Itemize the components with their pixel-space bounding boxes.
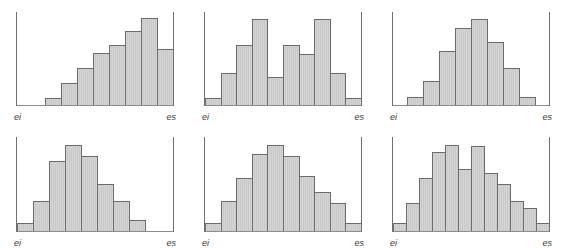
bar-series-2: [205, 12, 361, 105]
axis-label-left: ei: [14, 112, 21, 122]
bar: [61, 83, 78, 105]
axis-line-right-4: [173, 137, 174, 232]
bar: [77, 68, 94, 105]
axis-label-right: es: [166, 238, 176, 248]
bar: [97, 184, 114, 231]
axis-label-left: ei: [202, 112, 209, 122]
bar: [455, 28, 472, 105]
plot-area-1: [16, 12, 174, 106]
bar: [283, 45, 300, 105]
bar: [45, 98, 62, 105]
axis-line-left-4: [16, 137, 17, 232]
axis-line-right-5: [361, 137, 362, 232]
histogram-grid: eieseieseieseieseieseies: [0, 0, 568, 251]
bar: [205, 98, 222, 105]
baseline-4: [16, 231, 174, 232]
histogram-panel-5: eies: [188, 125, 376, 251]
bar: [109, 45, 126, 105]
axis-label-left: ei: [390, 238, 397, 248]
histogram-panel-1: eies: [0, 0, 188, 125]
bar-series-6: [393, 137, 549, 231]
bar: [221, 201, 238, 231]
bar: [439, 51, 456, 105]
bar: [432, 152, 446, 231]
axis-label-right: es: [542, 238, 552, 248]
bar: [33, 201, 50, 231]
bar: [252, 19, 269, 105]
bar: [157, 49, 174, 105]
bar: [330, 203, 347, 231]
bar: [423, 81, 440, 105]
bar: [497, 184, 511, 231]
plot-area-2: [204, 12, 362, 106]
bar: [113, 201, 130, 231]
bar: [252, 154, 269, 231]
bar: [471, 146, 485, 231]
bar: [299, 54, 316, 105]
bar: [299, 176, 316, 231]
bar: [510, 201, 524, 231]
bar: [205, 223, 222, 231]
bar: [314, 192, 331, 231]
bar: [523, 208, 537, 231]
axis-line-left-5: [204, 137, 205, 232]
baseline-3: [392, 105, 550, 106]
plot-area-5: [204, 137, 362, 232]
bar-series-1: [17, 12, 173, 105]
axis-label-right: es: [542, 112, 552, 122]
bar: [314, 19, 331, 105]
histogram-panel-2: eies: [188, 0, 376, 125]
axis-line-right-1: [173, 12, 174, 106]
axis-label-left: ei: [390, 112, 397, 122]
axis-line-right-6: [549, 137, 550, 232]
baseline-6: [392, 231, 550, 232]
axis-label-right: es: [354, 112, 364, 122]
axis-line-left-6: [392, 137, 393, 232]
bar: [407, 97, 424, 105]
bar: [503, 68, 520, 105]
axis-line-left-2: [204, 12, 205, 106]
bar-series-5: [205, 137, 361, 231]
baseline-2: [204, 105, 362, 106]
bar: [519, 97, 536, 105]
axis-line-right-2: [361, 12, 362, 106]
bar: [487, 42, 504, 105]
bar: [93, 53, 110, 105]
axis-line-left-1: [16, 12, 17, 106]
baseline-5: [204, 231, 362, 232]
plot-area-3: [392, 12, 550, 106]
bar: [445, 145, 459, 231]
bar: [17, 223, 34, 231]
bar: [267, 145, 284, 231]
bar: [393, 223, 407, 231]
bar: [267, 77, 284, 105]
histogram-panel-6: eies: [376, 125, 564, 251]
bar: [330, 73, 347, 105]
axis-label-left: ei: [14, 238, 21, 248]
bar-series-4: [17, 137, 173, 231]
axis-line-left-3: [392, 12, 393, 106]
bar: [484, 173, 498, 231]
plot-area-6: [392, 137, 550, 232]
bar: [471, 19, 488, 105]
bar: [129, 220, 146, 231]
axis-line-right-3: [549, 12, 550, 106]
baseline-1: [16, 105, 174, 106]
axis-label-right: es: [166, 112, 176, 122]
bar: [236, 45, 253, 105]
bar: [536, 223, 550, 231]
bar: [458, 169, 472, 231]
histogram-panel-3: eies: [376, 0, 564, 125]
bar: [221, 73, 238, 105]
bar: [125, 31, 142, 105]
bar: [345, 223, 362, 231]
bar: [406, 203, 420, 231]
bar: [141, 18, 158, 105]
plot-area-4: [16, 137, 174, 232]
bar: [283, 156, 300, 231]
axis-label-left: ei: [202, 238, 209, 248]
bar: [419, 178, 433, 231]
bar: [65, 145, 82, 231]
histogram-panel-4: eies: [0, 125, 188, 251]
axis-label-right: es: [354, 238, 364, 248]
